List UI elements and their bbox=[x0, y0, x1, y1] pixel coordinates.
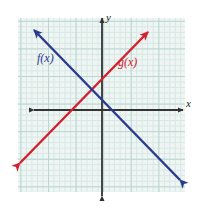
x-axis-label: x bbox=[186, 98, 191, 109]
graph-figure: y x f(x) g(x) bbox=[0, 0, 200, 207]
plot-overlay bbox=[0, 0, 200, 207]
curve-label-g: g(x) bbox=[118, 56, 137, 68]
curve-label-f: f(x) bbox=[37, 52, 54, 64]
y-axis-label: y bbox=[106, 12, 111, 23]
curve-f bbox=[34, 30, 180, 180]
